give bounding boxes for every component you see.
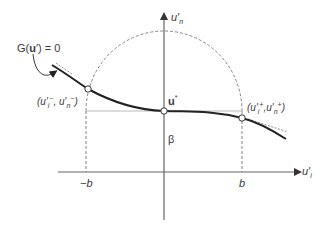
constraint-label: G(u′) = 0	[17, 43, 60, 54]
right-point-label: (u′i+,u′n+)	[247, 101, 285, 115]
left-point-label-open: (u′	[37, 96, 48, 107]
tick-pos-b: b	[239, 178, 245, 189]
horizontal-axis-label-sub: i	[310, 172, 312, 179]
left-point-label: (u′i−, u′n−)	[37, 95, 78, 109]
right-point-label-mid: ,u′	[263, 102, 273, 113]
constraint-label-prefix: G(	[17, 42, 29, 54]
ustar-point	[161, 108, 167, 114]
ustar-label: u*	[168, 94, 177, 107]
tick-neg-b: −b	[80, 178, 93, 189]
horizontal-axis-label: u′i	[302, 166, 312, 179]
vertical-axis-label-sub: n	[179, 18, 183, 25]
ustar-label-main: u	[168, 95, 175, 107]
right-point-label-n: n	[274, 108, 278, 115]
beta-label: β	[168, 134, 174, 145]
ustar-label-sup: *	[175, 94, 178, 101]
vertical-axis-label: u′n	[171, 12, 183, 25]
left-point-label-i: i	[48, 102, 50, 109]
right-point-label-open: (u′	[247, 102, 258, 113]
pointer-arrow	[33, 54, 55, 75]
right-point-label-close: )	[282, 102, 285, 113]
constraint-label-suffix: ′) = 0	[36, 42, 60, 54]
vertical-axis-label-main: u′	[171, 11, 179, 23]
right-point-label-i: i	[258, 108, 260, 115]
right-intersection-point	[239, 115, 245, 121]
left-point-label-mid: , u′	[53, 96, 66, 107]
left-point-label-n: n	[66, 102, 70, 109]
left-point-label-close: )	[74, 96, 77, 107]
left-intersection-point	[85, 86, 91, 92]
constraint-label-bold: u	[29, 42, 36, 54]
horizontal-axis-label-main: u′	[302, 165, 310, 177]
